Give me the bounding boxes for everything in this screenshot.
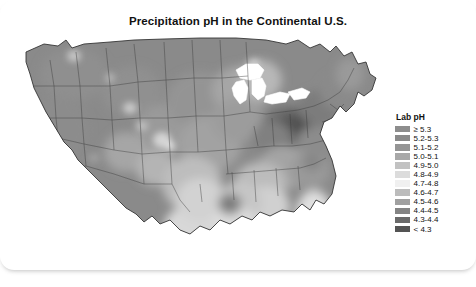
legend-item: ≥ 5.3: [395, 125, 471, 134]
legend-color-swatch: [395, 135, 410, 142]
legend-item: 5.1-5.2: [395, 143, 471, 152]
legend-item: 4.5-4.6: [395, 197, 471, 206]
legend-color-swatch: [395, 199, 410, 206]
legend-item: 4.7-4.8: [395, 179, 471, 188]
legend-color-swatch: [395, 189, 410, 196]
legend-color-swatch: [395, 126, 410, 133]
legend-color-swatch: [395, 180, 410, 187]
legend-label: 4.5-4.6: [414, 197, 439, 206]
legend-item: 4.9-5.0: [395, 161, 471, 170]
legend-label: ≥ 5.3: [414, 125, 432, 134]
legend-label: 4.9-5.0: [414, 161, 439, 170]
map-legend: Lab pH ≥ 5.35.2-5.35.1-5.25.0-5.14.9-5.0…: [395, 112, 471, 234]
precipitation-ph-map: [14, 34, 406, 258]
map-contour-layer: [14, 34, 406, 258]
legend-label: 4.7-4.8: [414, 179, 439, 188]
map-svg: [14, 34, 406, 258]
legend-color-swatch: [395, 208, 410, 215]
legend-item: 4.8-4.9: [395, 170, 471, 179]
legend-title: Lab pH: [396, 112, 471, 122]
legend-item: 5.0-5.1: [395, 152, 471, 161]
legend-color-swatch: [395, 153, 410, 160]
legend-color-swatch: [395, 144, 410, 151]
legend-label: < 4.3: [414, 225, 432, 234]
legend-rows: ≥ 5.35.2-5.35.1-5.25.0-5.14.9-5.04.8-4.9…: [395, 125, 471, 234]
legend-item: 4.4-4.5: [395, 206, 471, 215]
map-card: Precipitation pH in the Continental U.S.: [0, 0, 476, 270]
legend-item: 5.2-5.3: [395, 134, 471, 143]
legend-label: 5.2-5.3: [414, 134, 439, 143]
legend-item: < 4.3: [395, 225, 471, 234]
legend-label: 5.0-5.1: [414, 152, 439, 161]
legend-color-swatch: [395, 162, 410, 169]
legend-color-swatch: [395, 171, 410, 178]
legend-item: 4.6-4.7: [395, 188, 471, 197]
legend-item: 4.3-4.4: [395, 215, 471, 224]
legend-label: 5.1-5.2: [414, 143, 439, 152]
legend-label: 4.8-4.9: [414, 170, 439, 179]
legend-color-swatch: [395, 226, 410, 233]
legend-label: 4.4-4.5: [414, 206, 439, 215]
page-title: Precipitation pH in the Continental U.S.: [0, 15, 476, 27]
legend-label: 4.6-4.7: [414, 188, 439, 197]
legend-color-swatch: [395, 217, 410, 224]
legend-label: 4.3-4.4: [414, 215, 439, 224]
